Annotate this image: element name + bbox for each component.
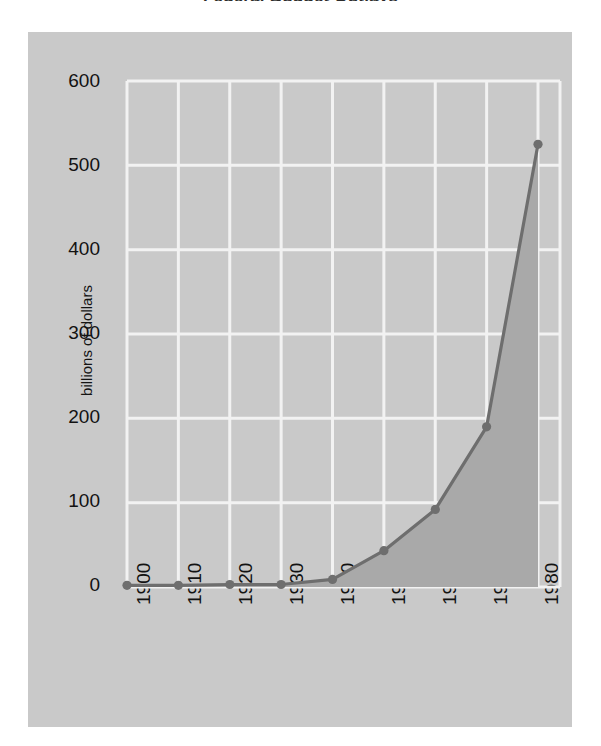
data-point-1910 (174, 581, 183, 590)
chart-panel: billions of dollars 600 500 400 300 200 … (28, 32, 572, 727)
chart-figure: Federal Budget Outlays billions of dolla… (0, 0, 601, 746)
data-point-1950 (379, 546, 388, 555)
data-point-1900 (122, 581, 131, 590)
data-point-1980 (533, 140, 542, 149)
data-point-1970 (482, 422, 491, 431)
chart-title: Federal Budget Outlays (0, 0, 601, 1)
plot-area (28, 32, 572, 727)
data-point-1920 (225, 580, 234, 589)
data-point-1930 (277, 580, 286, 589)
data-point-1940 (328, 575, 337, 584)
data-point-1960 (431, 505, 440, 514)
